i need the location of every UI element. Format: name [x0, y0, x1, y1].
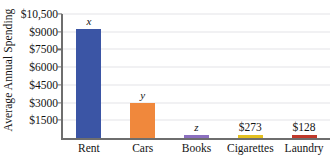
- y-axis-tick-label: $3000: [29, 97, 58, 109]
- bar-chart-figure: Average Annual Spending $1500$3000$4500$…: [0, 0, 330, 163]
- bar-group[interactable]: $128: [292, 0, 317, 138]
- y-axis-tick-label: $4500: [29, 79, 58, 91]
- bar-group[interactable]: x: [76, 0, 101, 138]
- x-axis-label-cars: Cars: [132, 142, 153, 154]
- x-axis-category-labels: RentCarsBooksCigarettesLaundry: [61, 141, 330, 163]
- bar-value-label: $273: [224, 121, 277, 133]
- x-axis-label-cigarettes: Cigarettes: [227, 142, 274, 154]
- y-axis-tick-label: $7500: [29, 43, 58, 55]
- y-axis-tick-label: $9000: [29, 26, 58, 38]
- plot-area: xyz$273$128: [61, 0, 330, 140]
- bar-group[interactable]: $273: [238, 0, 263, 138]
- y-axis-tick-labels: $1500$3000$4500$6000$7500$9000$10,500: [17, 0, 61, 140]
- x-axis-label-laundry: Laundry: [285, 142, 324, 154]
- bar-rent[interactable]: [76, 29, 101, 138]
- bar-value-label: z: [170, 121, 223, 133]
- bar-group[interactable]: z: [184, 0, 209, 138]
- bar-value-label: x: [62, 15, 115, 27]
- bar-value-label: y: [116, 89, 169, 101]
- x-axis-line: [61, 138, 330, 140]
- bar-group[interactable]: y: [130, 0, 155, 138]
- bar-value-label: $128: [278, 121, 330, 133]
- y-axis-tick-label: $10,500: [21, 8, 58, 20]
- y-axis-title-text: Average Annual Spending: [3, 9, 15, 132]
- bars-container: xyz$273$128: [62, 0, 330, 138]
- x-axis-label-books: Books: [182, 142, 211, 154]
- y-axis-title: Average Annual Spending: [0, 0, 17, 140]
- bar-cars[interactable]: [130, 103, 155, 138]
- y-axis-tick-label: $1500: [29, 114, 58, 126]
- y-axis-tick-label: $6000: [29, 61, 58, 73]
- x-axis-label-rent: Rent: [78, 142, 100, 154]
